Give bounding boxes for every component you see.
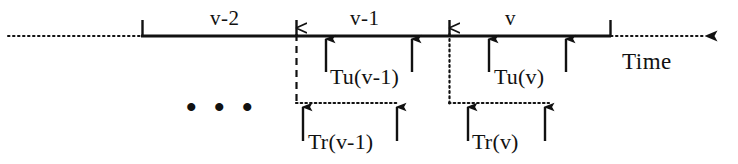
- period-label-v-minus-1: v-1: [350, 8, 380, 29]
- tu-v-minus-1-label: Tu(v-1): [330, 66, 399, 88]
- period-label-v-minus-2: v-2: [210, 8, 240, 29]
- tu-v-label: Tu(v): [494, 66, 544, 88]
- timeline-figure: v-2 v-1 v Tu(v-1) Tu(v) Tr(v-1) Tr(v) Ti…: [0, 0, 738, 164]
- time-axis-label: Time: [622, 50, 672, 73]
- continuation-ellipsis: • • •: [186, 92, 258, 122]
- tr-v-label: Tr(v): [472, 131, 519, 153]
- period-label-v: v: [505, 8, 516, 29]
- tr-v-minus-1-label: Tr(v-1): [308, 131, 373, 153]
